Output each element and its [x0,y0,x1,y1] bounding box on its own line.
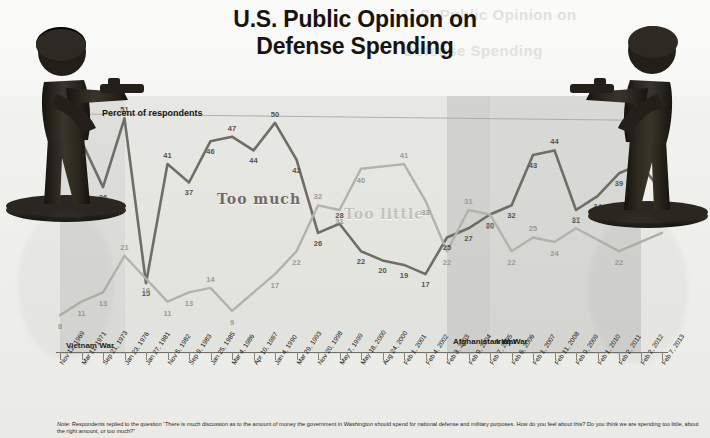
title-line-2: Defense Spending [0,33,710,60]
value-label: 42 [292,165,300,174]
value-label: 27 [572,215,580,224]
value-label: 22 [292,258,300,267]
value-label: 36 [99,193,107,202]
value-label: 34 [593,202,601,211]
value-label: 31 [464,196,472,205]
value-label: 16 [142,285,150,294]
value-label: 44 [550,137,558,146]
value-label: 26 [314,238,322,247]
value-label: 9 [230,317,234,326]
value-label: 43 [529,160,537,169]
value-label: 50 [271,109,279,118]
chart-plot-area: 5246365115413746474450422628222019172527… [56,96,666,354]
series-label-too-little: Too little [344,206,424,222]
chart-lines [56,96,666,354]
value-label: 13 [185,299,193,308]
value-label: 17 [271,281,279,290]
chart-footnote: Note: Respondents replied to the questio… [57,421,705,435]
value-label: 44 [249,156,257,165]
value-label: 22 [357,257,365,266]
value-label: 17 [421,280,429,289]
value-label: 41 [163,151,171,160]
x-axis-labels: Nov 12, 1969Mar 11, 1971Sep 21, 1973Jan … [0,362,710,420]
footnote-body: Respondents replied to the question “The… [57,421,699,434]
value-label: 52 [56,100,64,109]
value-label: 14 [206,274,214,283]
page-title: U.S. Public Opinion on Defense Spending [0,6,710,60]
value-label: 41 [400,151,408,160]
value-label: 47 [228,123,236,132]
value-label: 46 [206,147,214,156]
value-label: 35 [658,197,666,206]
series-line-too-little [60,164,662,315]
soldier-reflection-left [18,210,114,360]
value-label: 40 [357,175,365,184]
series-label-too-much: Too much [217,191,301,207]
value-label: 32 [314,192,322,201]
value-label: 22 [443,258,451,267]
value-label: 32 [507,211,515,220]
value-label: 21 [120,242,128,251]
value-label: 20 [378,266,386,275]
value-label: 25 [529,224,537,233]
value-label: 27 [464,234,472,243]
value-label: 41 [636,151,644,160]
infographic-canvas: U.S. Public Opinion on Defense Spending … [0,0,710,438]
value-label: 46 [77,147,85,156]
value-label: 30 [486,221,494,230]
value-label: 39 [615,179,623,188]
soldier-reflection-right [588,214,688,364]
value-label: 24 [550,249,558,258]
value-label: 31 [335,216,343,225]
value-label: 11 [164,308,172,317]
y-axis-caption: Percent of respondents [102,108,203,118]
value-label: 25 [443,243,451,252]
value-label: 37 [185,188,193,197]
value-label: 19 [400,270,408,279]
value-label: 22 [507,258,515,267]
footnote-prefix: Note: [57,421,70,427]
war-label-iraq-war: Iraq War [496,337,528,346]
title-line-1: U.S. Public Opinion on [0,6,710,33]
